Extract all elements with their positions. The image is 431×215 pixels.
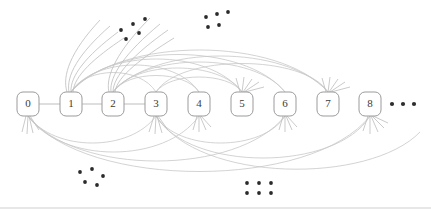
whisker-fans-layer — [22, 18, 388, 134]
whisker-fan-node-8-down — [363, 116, 388, 134]
whisker-fan-node-5-up-stroke-0 — [236, 78, 240, 92]
node-1[interactable]: 1 — [60, 92, 82, 116]
ellipsis-cluster-top-right-dot-2 — [226, 10, 230, 14]
node-0-label: 0 — [25, 97, 31, 109]
ellipsis-cluster-bottom-right-dot-1 — [257, 181, 261, 185]
whisker-fan-node-7-up-stroke-1 — [328, 77, 330, 92]
whisker-fan-node-5-up-stroke-1 — [242, 77, 244, 92]
trailing-ellipsis-dot-1 — [401, 102, 405, 106]
arc-1-7 — [71, 50, 328, 92]
node-8-label: 8 — [367, 97, 373, 109]
whisker-fan-node-0-down-stroke-1 — [27, 116, 28, 134]
whisker-fan-node-0-down-stroke-2 — [29, 116, 33, 133]
whisker-fan-node-3-down-stroke-0 — [149, 116, 154, 132]
ellipsis-cluster-top-left-dot-0 — [119, 28, 123, 32]
ellipsis-cluster-top-left-dot-2 — [143, 17, 147, 21]
node-7[interactable]: 7 — [317, 92, 339, 116]
arc-edges-below-layer — [28, 116, 420, 172]
node-5[interactable]: 5 — [231, 92, 253, 116]
whisker-fan-node-3-down — [149, 116, 168, 134]
ellipsis-cluster-bottom-right-dot-4 — [257, 191, 261, 195]
node-1-label: 1 — [68, 97, 74, 109]
node-2[interactable]: 2 — [102, 92, 124, 116]
ellipsis-cluster-top-right — [204, 10, 230, 29]
node-0[interactable]: 0 — [17, 92, 39, 116]
figure-canvas: 012345678 — [0, 0, 431, 215]
whisker-fan-node-1-up-stroke-1 — [69, 26, 110, 92]
ellipsis-cluster-top-left-dot-1 — [131, 22, 135, 26]
arc-edges-above-layer — [71, 50, 328, 92]
ellipsis-cluster-bottom-left-dot-4 — [95, 183, 99, 187]
node-3[interactable]: 3 — [145, 92, 167, 116]
arc-3-8-low — [156, 116, 370, 158]
ellipsis-cluster-top-left — [119, 17, 147, 41]
ellipsis-cluster-bottom-right-dot-2 — [269, 181, 273, 185]
ellipsis-cluster-top-left-dot-3 — [124, 37, 128, 41]
ellipsis-cluster-top-right-dot-3 — [206, 25, 210, 29]
nodes-layer: 012345678 — [17, 92, 381, 116]
trailing-ellipsis-dot-2 — [412, 102, 416, 106]
arc-0-3-low — [28, 116, 156, 143]
ellipsis-cluster-bottom-left-dot-2 — [101, 174, 105, 178]
ellipsis-cluster-top-right-dot-4 — [217, 23, 221, 27]
whisker-fan-node-0-down-stroke-0 — [22, 116, 26, 132]
node-8[interactable]: 8 — [359, 92, 381, 116]
node-4-label: 4 — [196, 97, 202, 109]
whisker-fan-node-4-down — [193, 116, 211, 132]
ellipsis-cluster-top-right-dot-0 — [204, 15, 208, 19]
ellipsis-cluster-bottom-right-dot-3 — [245, 191, 249, 195]
arc-0-6-low — [28, 116, 285, 161]
ellipsis-cluster-bottom-left-dot-0 — [78, 170, 82, 174]
graph-diagram: 012345678 — [0, 0, 431, 215]
ellipsis-cluster-bottom-right-dot-5 — [269, 191, 273, 195]
node-6[interactable]: 6 — [274, 92, 296, 116]
ellipsis-cluster-bottom-right — [245, 181, 273, 195]
arc-3-6-low — [156, 116, 285, 143]
node-4[interactable]: 4 — [188, 92, 210, 116]
trailing-ellipsis — [390, 102, 416, 106]
whisker-fan-node-2-up-stroke-0 — [108, 18, 150, 92]
node-5-label: 5 — [239, 97, 245, 109]
whisker-fan-node-1-up-stroke-3 — [73, 38, 124, 92]
ellipsis-cluster-top-right-dot-1 — [215, 12, 219, 16]
node-3-label: 3 — [153, 97, 159, 109]
whisker-fan-node-3-down-stroke-1 — [155, 116, 156, 134]
node-2-label: 2 — [110, 97, 116, 109]
whisker-fan-node-6-down — [279, 116, 297, 132]
node-6-label: 6 — [282, 97, 288, 109]
trailing-ellipsis-dot-0 — [390, 102, 394, 106]
node-7-label: 7 — [325, 97, 331, 109]
ellipsis-cluster-bottom-right-dot-0 — [245, 181, 249, 185]
ellipsis-cluster-bottom-left-dot-1 — [90, 167, 94, 171]
ellipsis-cluster-bottom-left — [78, 167, 105, 187]
ellipsis-cluster-top-left-dot-4 — [137, 31, 141, 35]
whisker-fan-node-0-down-stroke-3 — [30, 116, 39, 130]
ellipsis-cluster-bottom-left-dot-3 — [83, 180, 87, 184]
